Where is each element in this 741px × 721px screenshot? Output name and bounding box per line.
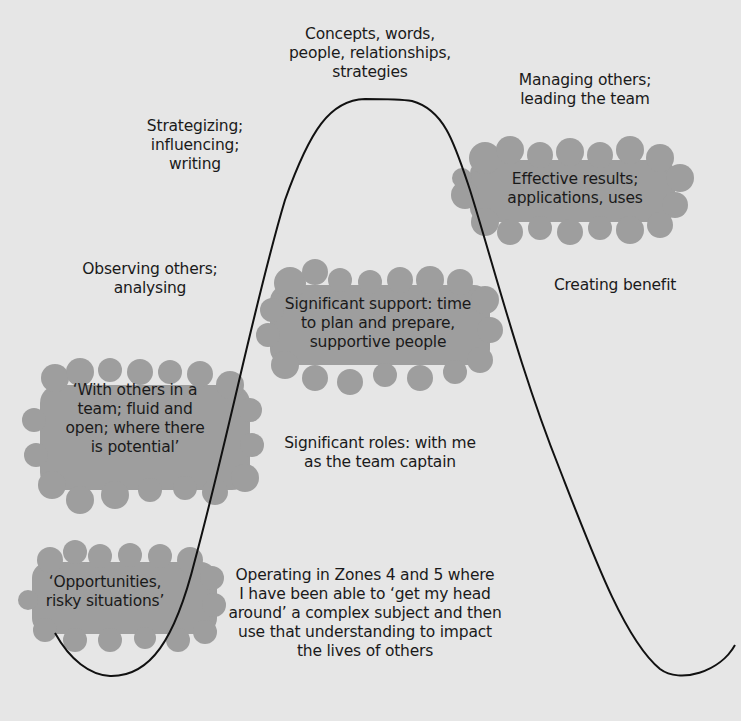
label-effective-results: Effective results; applications, uses (490, 170, 660, 208)
label-operating: Operating in Zones 4 and 5 where I have … (225, 566, 505, 661)
label-observing: Observing others; analysing (65, 260, 235, 298)
label-peak: Concepts, words, people, relationships, … (270, 25, 470, 82)
label-managing: Managing others; leading the team (500, 71, 670, 109)
label-significant-roles: Significant roles: with me as the team c… (265, 434, 495, 472)
label-creating-benefit: Creating benefit (535, 276, 695, 295)
label-with-others: ‘With others in a team; fluid and open; … (40, 381, 230, 457)
bell-curve-diagram: Concepts, words, people, relationships, … (0, 0, 741, 721)
label-significant-support: Significant support: time to plan and pr… (268, 295, 488, 352)
label-opportunities: ‘Opportunities, risky situations’ (25, 573, 185, 611)
label-strategizing: Strategizing; influencing; writing (125, 117, 265, 174)
